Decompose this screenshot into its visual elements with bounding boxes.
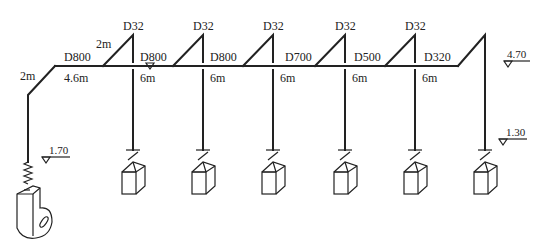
elevation-terminal-value: 1.30 (506, 126, 526, 138)
branch-rise-label: 2m (96, 37, 112, 51)
main-duct (28, 66, 458, 162)
labels: D32 D32 D32 D32 D32 D800 D800 D800 D700 … (20, 19, 451, 85)
branch-3 (243, 35, 273, 150)
branch-label-5: D32 (405, 19, 426, 33)
segment-size-6: D320 (424, 50, 451, 64)
terminal-3 (262, 150, 285, 194)
duct-system-diagram: D32 D32 D32 D32 D32 D800 D800 D800 D700 … (0, 0, 544, 252)
branch-label-3: D32 (263, 19, 284, 33)
terminal-1 (122, 150, 145, 194)
branch-2 (173, 35, 203, 150)
elevation-main-value: 4.70 (507, 48, 527, 60)
branch-label-2: D32 (193, 19, 214, 33)
branch-4 (315, 35, 345, 150)
elevation-marker-fan: 1.70 (42, 144, 70, 163)
branch-label-4: D32 (335, 19, 356, 33)
terminal-4 (334, 150, 357, 194)
segment-size-4: D700 (285, 50, 312, 64)
terminals (122, 150, 497, 194)
segment-size-1: D800 (64, 50, 91, 64)
branch-end (458, 35, 485, 150)
segment-size-3: D800 (210, 50, 237, 64)
branch-1 (103, 35, 133, 150)
centrifugal-fan (17, 162, 52, 238)
elevation-marker-terminal: 1.30 (499, 126, 527, 145)
branch-5 (385, 35, 415, 150)
terminal-6 (474, 150, 497, 194)
segment-size-2: D800 (140, 50, 167, 64)
segment-size-5: D500 (354, 50, 381, 64)
elevation-marker-main: 4.70 (504, 48, 530, 67)
segment-length-5: 6m (352, 71, 368, 85)
segment-length-6: 6m (422, 71, 438, 85)
segment-length-3: 6m (210, 71, 226, 85)
segment-length-4: 6m (280, 71, 296, 85)
elevation-fan-value: 1.70 (49, 144, 69, 156)
terminal-5 (404, 150, 427, 194)
terminal-2 (192, 150, 215, 194)
segment-length-1: 4.6m (64, 71, 89, 85)
segment-length-2: 6m (140, 71, 156, 85)
branch-label-1: D32 (123, 19, 144, 33)
riser-length-label: 2m (20, 69, 36, 83)
